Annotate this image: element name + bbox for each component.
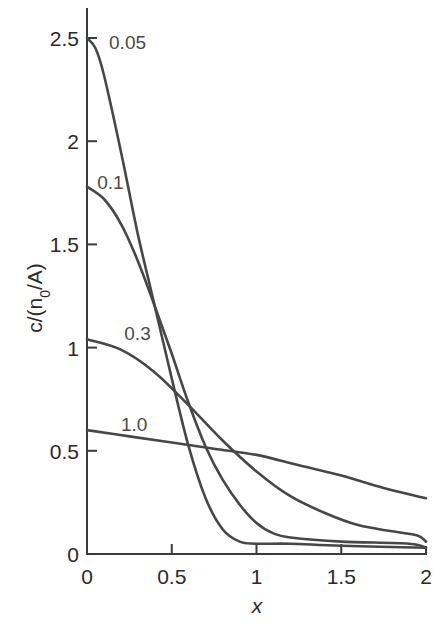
x-tick-label: 1: [251, 565, 263, 588]
curve-label: 0.1: [97, 172, 123, 193]
curve-0-3: [87, 339, 426, 541]
curves: [87, 38, 426, 548]
x-tick-label: 0: [81, 565, 93, 588]
y-tick-label: 0: [67, 543, 79, 566]
y-axis-title: c/(n0/A): [23, 263, 53, 333]
curve-label: 0.05: [109, 32, 146, 53]
x-tick-label: 1.5: [327, 565, 356, 588]
y-tick-label: 0.5: [50, 440, 79, 463]
curve-labels: 0.050.10.31.0: [97, 32, 151, 435]
y-tick-label: 2.5: [50, 27, 79, 50]
tick-labels: 00.511.5200.511.522.5: [50, 27, 432, 588]
curve-1-0: [87, 430, 426, 498]
curve-label: 1.0: [121, 414, 147, 435]
x-tick-label: 2: [420, 565, 432, 588]
y-tick-label: 1: [67, 337, 79, 360]
curve-label: 0.3: [124, 323, 150, 344]
y-tick-label: 2: [67, 130, 79, 153]
x-axis-title: x: [251, 594, 264, 617]
curve-0-1: [87, 187, 426, 548]
y-tick-label: 1.5: [50, 233, 79, 256]
tick-marks: [87, 38, 341, 554]
line-chart: 00.511.5200.511.522.5 0.050.10.31.0 x c/…: [0, 0, 440, 628]
x-tick-label: 0.5: [157, 565, 186, 588]
